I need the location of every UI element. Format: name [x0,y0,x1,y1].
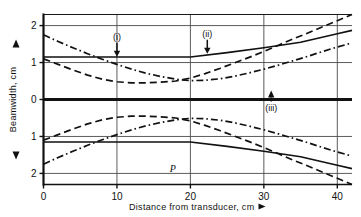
y-tick-label: 1 [31,57,37,68]
y-tick-label: 1 [31,131,37,142]
annotation-arrow-head [268,90,274,97]
y-axis-arrow-up-icon [13,40,20,48]
y-tick-label: 0 [31,94,37,105]
x-tick-label: 10 [111,191,123,202]
x-tick-label: 20 [185,191,197,202]
x-axis-arrow-icon [258,204,265,210]
y-tick-label: 2 [31,20,37,31]
beamwidth-chart-figure: 21012010203040(i)(ii)(iii)PDistance from… [0,0,361,217]
chart-svg: 21012010203040(i)(ii)(iii)PDistance from… [0,0,361,217]
x-tick-label: 0 [41,191,47,202]
annotation-label: (ii) [202,29,212,39]
curve-i-lower [44,116,353,184]
annotation-arrow-head [114,51,120,57]
annotation-label: (i) [113,32,121,42]
curve-ii-lower [44,142,353,169]
curve-ii-upper [44,30,353,57]
annotation-label: (iii) [265,103,277,113]
x-axis-title: Distance from transducer, cm [129,202,254,212]
y-axis-title: Beamwidth, cm [8,67,18,132]
point-p-label: P [169,163,176,174]
curve-i-upper [44,15,353,83]
annotation-arrow-head [204,48,210,54]
x-tick-label: 40 [332,191,344,202]
y-tick-label: 2 [31,168,37,179]
x-tick-label: 30 [258,191,270,202]
y-axis-arrow-down-icon [13,152,20,160]
